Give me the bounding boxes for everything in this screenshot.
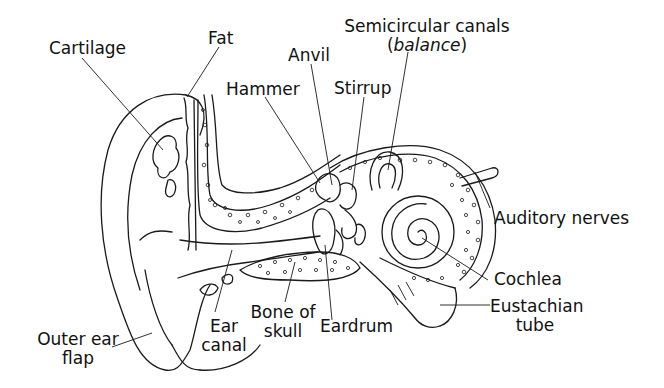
label-cochlea: Cochlea <box>494 270 562 289</box>
cochlea-shape <box>382 196 454 268</box>
label-earcanal-line2: canal <box>198 336 250 355</box>
label-balance: balance <box>394 35 461 55</box>
label-outer-line1: Outer ear <box>32 330 124 349</box>
label-earcanal-line1: Ear <box>198 317 250 336</box>
label-eardrum: Eardrum <box>320 317 393 336</box>
label-auditory-nerves: Auditory nerves <box>494 209 629 228</box>
paren-close: ) <box>460 35 467 55</box>
semicircular-canals-shape <box>370 152 402 190</box>
label-eustachian-line1: Eustachian <box>490 297 580 316</box>
label-bone-line1: Bone of <box>248 303 318 322</box>
ossicles-shape <box>316 174 366 255</box>
label-semicircular-line2: (balance) <box>339 36 515 55</box>
label-bone-of-skull: Bone of skull <box>248 303 318 341</box>
label-anvil: Anvil <box>288 46 330 65</box>
label-outer-ear-flap: Outer ear flap <box>32 330 124 368</box>
label-stirrup: Stirrup <box>334 79 391 98</box>
cartilage-shape <box>153 136 179 197</box>
paren-open: ( <box>387 35 394 55</box>
eardrum-shape <box>313 209 335 254</box>
label-hammer: Hammer <box>226 80 300 99</box>
label-outer-line2: flap <box>32 349 124 368</box>
label-bone-line2: skull <box>248 322 318 341</box>
label-semicircular-canals: Semicircular canals (balance) <box>339 17 515 55</box>
skull-upper-band <box>198 95 341 232</box>
fat-shape <box>184 98 190 250</box>
label-cartilage: Cartilage <box>49 39 126 58</box>
label-fat: Fat <box>208 29 233 48</box>
label-ear-canal: Ear canal <box>198 317 250 355</box>
skull-lower-band <box>240 252 360 281</box>
label-semicircular-line1: Semicircular canals <box>339 17 515 36</box>
label-eustachian-line2: tube <box>490 316 580 335</box>
auditory-nerve-shape <box>460 168 498 186</box>
label-eustachian-tube: Eustachian tube <box>490 297 580 335</box>
